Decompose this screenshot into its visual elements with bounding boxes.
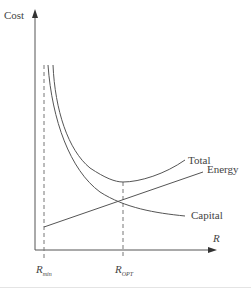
y-axis-arrow-icon (32, 9, 38, 18)
r-min-subscript: min (43, 271, 52, 277)
x-axis-label: R (213, 233, 220, 244)
x-axis-arrow-icon (208, 247, 217, 253)
capital-curve (48, 65, 185, 216)
r-opt-subscript: OPT (122, 271, 133, 277)
y-axis-label: Cost (4, 10, 24, 21)
capital-curve-label: Capital (191, 210, 223, 221)
cost-diagram-canvas (0, 0, 251, 290)
r-min-label: Rmin (36, 264, 52, 277)
bottom-divider (0, 287, 251, 288)
r-opt-label: ROPT (115, 264, 133, 277)
energy-line-label: Energy (207, 164, 239, 175)
total-curve (53, 65, 185, 182)
